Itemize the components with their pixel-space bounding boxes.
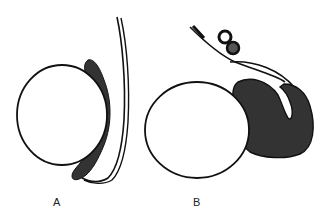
panel-b-duct (190, 27, 285, 82)
panel-a-testis (17, 65, 107, 165)
diagram (0, 0, 333, 220)
panel-a-label: A (53, 196, 60, 208)
panel-b-testis (145, 82, 249, 178)
panel-b (145, 26, 313, 178)
panel-a (17, 17, 129, 183)
panel-b-label: B (193, 196, 200, 208)
